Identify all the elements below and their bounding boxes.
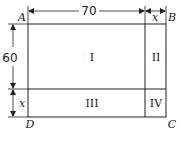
region-label-i: I <box>90 51 94 64</box>
region-label-iii: III <box>85 97 98 110</box>
label-60: 60 <box>2 51 17 65</box>
corner-label-a: A <box>17 11 26 24</box>
label-x-left: x <box>19 97 26 110</box>
region-label-ii: II <box>152 51 161 64</box>
corner-label-c: C <box>168 118 177 131</box>
region-label-iv: IV <box>150 97 163 110</box>
corner-label-d: D <box>25 118 35 131</box>
label-70: 70 <box>81 4 96 18</box>
label-x-top: x <box>152 11 159 24</box>
corner-label-b: B <box>167 11 176 24</box>
rectangle-diagram: 70 x 60 x A B C D I II III IV <box>0 0 182 144</box>
